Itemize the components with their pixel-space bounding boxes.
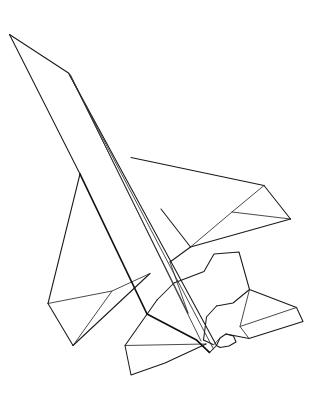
fighter-jet-line-drawing bbox=[0, 0, 321, 415]
drawing-canvas bbox=[0, 0, 321, 415]
